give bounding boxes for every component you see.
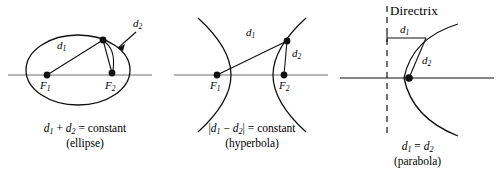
parabola-d1-label: d1 — [400, 24, 409, 35]
ellipse-focus-2-label: F2 — [105, 80, 115, 91]
ellipse-caption-line-1: d1 + d2 = constant — [0, 122, 170, 137]
ellipse-curve — [26, 35, 130, 105]
hyperbola-caption-line-1: |d1 − d2| = constant — [168, 122, 336, 137]
d2-segment — [284, 41, 287, 75]
hyperbola-focus-1-label: F1 — [210, 80, 220, 91]
hyperbola-d2-label: d2 — [292, 48, 301, 59]
ellipse-focus-1-label: F1 — [40, 80, 50, 91]
ellipse-caption: d1 + d2 = constant (ellipse) — [0, 122, 170, 150]
parabola-caption: d1 = d2 (parabola) — [334, 140, 501, 168]
focus-1-point — [214, 72, 221, 79]
ellipse-d2-label: d2 — [133, 18, 142, 29]
parabola-caption-line-2: (parabola) — [334, 155, 501, 169]
point-on-curve — [284, 38, 291, 45]
panel-hyperbola: d1 d2 F1 F2 |d1 − d2| = constant (hyperb… — [168, 0, 336, 173]
conic-sections-figure: d1 d2 F1 F2 d1 + d2 = constant (ellipse) — [0, 0, 501, 173]
ellipse-caption-line-2: (ellipse) — [0, 137, 170, 151]
parabola-caption-line-1: d1 = d2 — [334, 140, 501, 155]
hyperbola-caption-line-2: (hyperbola) — [168, 137, 336, 151]
d1-segment — [47, 40, 103, 75]
hyperbola-d1-label: d1 — [246, 27, 255, 38]
parabola-d2-label: d2 — [422, 55, 431, 66]
directrix-label: Directrix — [390, 4, 438, 17]
d2-arrow-shaft — [118, 32, 136, 48]
panel-ellipse: d1 d2 F1 F2 d1 + d2 = constant (ellipse) — [0, 0, 170, 173]
focus-2-point — [281, 72, 288, 79]
focus-2-point — [109, 70, 116, 77]
point-on-curve — [100, 37, 107, 44]
hyperbola-focus-2-label: F2 — [279, 80, 289, 91]
focus-point — [405, 74, 413, 82]
ellipse-d1-label: d1 — [57, 40, 66, 51]
panel-parabola: Directrix d1 d2 d1 = d2 (parabola) — [334, 0, 501, 173]
hyperbola-caption: |d1 − d2| = constant (hyperbola) — [168, 122, 336, 150]
focus-1-point — [44, 72, 51, 79]
